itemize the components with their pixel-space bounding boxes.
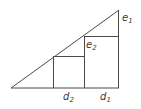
label-d1-base: d bbox=[100, 91, 106, 102]
label-d1: d1 bbox=[100, 92, 111, 102]
geometry-figure: e1 e2 d2 d1 bbox=[0, 0, 141, 109]
label-e1-sub: 1 bbox=[128, 17, 132, 25]
label-d2: d2 bbox=[63, 92, 74, 102]
label-d2-base: d bbox=[63, 91, 69, 102]
label-e2: e2 bbox=[86, 40, 97, 50]
label-e1: e1 bbox=[122, 13, 133, 23]
label-d1-sub: 1 bbox=[107, 96, 111, 104]
triangle-hypotenuse bbox=[11, 10, 119, 88]
label-d2-sub: 2 bbox=[70, 96, 74, 104]
label-e2-sub: 2 bbox=[92, 44, 96, 52]
